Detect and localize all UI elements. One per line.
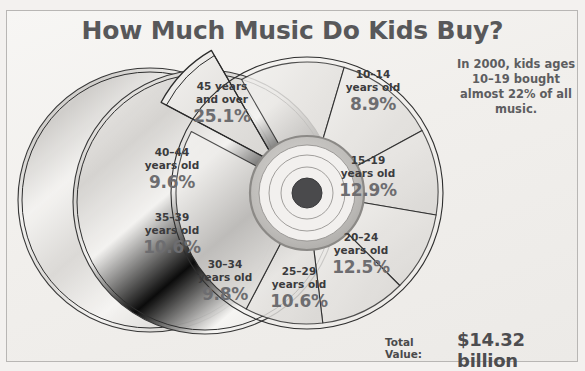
total-value-row: Total Value: $14.32 billion — [385, 329, 585, 371]
slice-label-sub: years old — [272, 278, 326, 290]
slice-label-sub: years old — [145, 224, 199, 236]
annotation-callout: In 2000, kids ages 10–19 bought almost 2… — [452, 57, 580, 117]
slice-label-name: 45 years — [197, 80, 248, 92]
page-title: How Much Music Do Kids Buy? — [0, 16, 585, 45]
slice-label-45-over: 45 yearsand over25.1% — [177, 80, 267, 126]
slice-label-40-44: 40–44years old9.6% — [127, 146, 217, 192]
slice-label-sub: years old — [198, 271, 252, 283]
slice-label-name: 25–29 — [282, 265, 316, 277]
cd-center-hole — [292, 178, 322, 208]
slice-label-sub: years old — [334, 244, 388, 256]
slice-label-35-39: 35–39years old10.6% — [127, 211, 217, 257]
slice-percent-value: 9.6% — [127, 172, 217, 192]
slice-label-sub: years old — [341, 167, 395, 179]
slice-label-10-14: 10–14years old8.9% — [328, 68, 418, 114]
slice-percent-value: 10.6% — [127, 237, 217, 257]
slice-label-name: 30–34 — [208, 258, 242, 270]
infographic-page: How Much Music Do Kids Buy? 10–14years o… — [0, 0, 585, 371]
slice-label-30-34: 30–34years old9.8% — [180, 258, 270, 304]
slice-label-name: 10–14 — [356, 68, 390, 80]
pie-chart-graphic — [0, 0, 585, 371]
slice-label-name: 15–19 — [351, 154, 385, 166]
slice-label-sub: years old — [145, 159, 199, 171]
slice-label-sub: and over — [196, 93, 248, 105]
slice-label-15-19: 15–19years old12.9% — [323, 154, 413, 200]
slice-percent-value: 25.1% — [177, 106, 267, 126]
slice-percent-value: 8.9% — [328, 94, 418, 114]
slice-label-name: 35–39 — [155, 211, 189, 223]
slice-label-name: 40–44 — [155, 146, 189, 158]
total-value-amount: $14.32 billion — [457, 329, 585, 371]
slice-label-name: 20–24 — [344, 231, 378, 243]
slice-percent-value: 12.9% — [323, 180, 413, 200]
slice-percent-value: 9.8% — [180, 284, 270, 304]
total-value-label: Total Value: — [385, 336, 451, 360]
slice-label-sub: years old — [346, 81, 400, 93]
